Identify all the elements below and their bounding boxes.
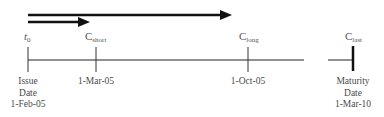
label-line: Date xyxy=(4,88,52,100)
label-line: Date xyxy=(329,88,377,100)
label-line: 1-Mar-05 xyxy=(72,76,120,88)
short-arrow-head xyxy=(78,17,90,27)
symbol-c-last: Clast xyxy=(345,30,362,44)
symbol-c-short: Cshort xyxy=(85,30,106,44)
label-c-long-date: 1-Oct-05 xyxy=(224,76,272,88)
symbol-t0: t0 xyxy=(24,30,31,44)
label-c-short-date: 1-Mar-05 xyxy=(72,76,120,88)
symbol-sub: long xyxy=(246,36,258,44)
symbol-sub: 0 xyxy=(27,36,31,44)
symbol-sub: last xyxy=(352,36,362,44)
label-maturity-date: Maturity Date 1-Mar-10 xyxy=(329,76,377,111)
long-arrow-head xyxy=(220,10,232,20)
label-line: 1-Oct-05 xyxy=(224,76,272,88)
label-line: Issue xyxy=(4,76,52,88)
timeline-graphic xyxy=(0,0,384,117)
label-line: 1-Feb-05 xyxy=(4,99,52,111)
label-issue-date: Issue Date 1-Feb-05 xyxy=(4,76,52,111)
label-line: Maturity xyxy=(329,76,377,88)
symbol-sub: short xyxy=(92,36,106,44)
label-line: 1-Mar-10 xyxy=(329,99,377,111)
symbol-c-long: Clong xyxy=(239,30,259,44)
